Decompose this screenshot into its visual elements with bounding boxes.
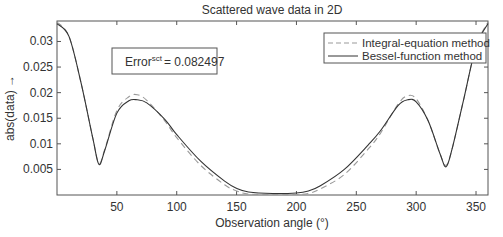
- x-tick-label: 100: [167, 200, 187, 214]
- y-tick-label: 0.025: [23, 60, 53, 74]
- legend: Integral-equation method Bessel-function…: [324, 33, 490, 63]
- chart-container: Scattered wave data in 2D 50100150200250…: [0, 0, 503, 237]
- error-text: Errorsct= 0.082497: [125, 54, 225, 69]
- x-tick-label: 200: [286, 200, 306, 214]
- x-tick-label: 300: [406, 200, 426, 214]
- legend-label-integral: Integral-equation method: [362, 37, 490, 49]
- error-annotation: Errorsct= 0.082497: [112, 48, 225, 74]
- y-tick-label: 0.03: [30, 34, 54, 48]
- y-tick-label: 0.015: [23, 111, 53, 125]
- line-chart: Scattered wave data in 2D 50100150200250…: [0, 0, 503, 237]
- legend-label-bessel: Bessel-function method: [362, 50, 482, 62]
- y-tick-label: 0.005: [23, 162, 53, 176]
- x-tick-label: 250: [346, 200, 366, 214]
- y-axis-label: abs(data) →: [3, 75, 17, 141]
- chart-title: Scattered wave data in 2D: [202, 3, 343, 17]
- x-tick-label: 50: [110, 200, 124, 214]
- x-tick-label: 350: [466, 200, 486, 214]
- y-tick-label: 0.02: [30, 86, 54, 100]
- y-tick-label: 0.01: [30, 137, 54, 151]
- x-tick-label: 150: [227, 200, 247, 214]
- x-axis-label: Observation angle (°): [215, 216, 329, 230]
